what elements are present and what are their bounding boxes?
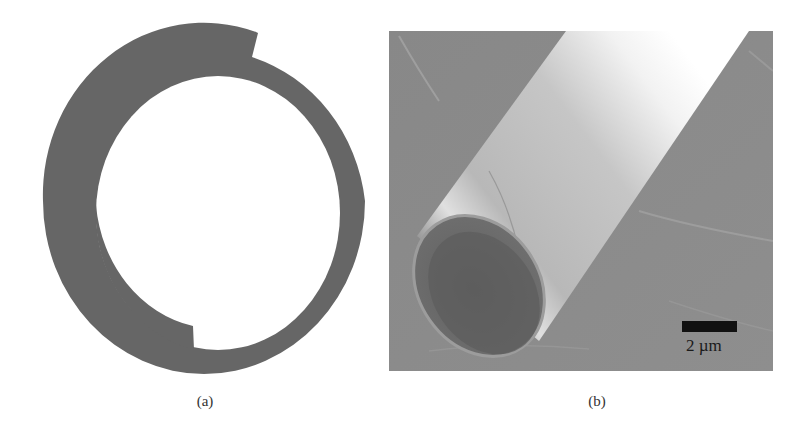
panel-a-label: (a): [197, 393, 214, 410]
scale-bar-label: 2 µm: [686, 336, 722, 356]
scale-bar: [682, 321, 737, 332]
panel-b-sem-image: 2 µm: [389, 31, 773, 371]
panel-a-ring-diagram: (a): [0, 0, 390, 430]
sem-microtube-image: [389, 31, 773, 371]
panel-b-label: (b): [588, 393, 606, 410]
rolled-tube-cross-section-diagram: [0, 0, 390, 430]
